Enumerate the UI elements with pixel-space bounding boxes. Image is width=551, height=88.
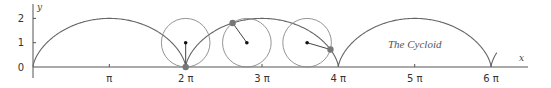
tracing-point <box>327 46 333 52</box>
x-tick-label: 6 π <box>483 73 499 84</box>
x-tick-label: 2 π <box>178 73 194 84</box>
tracing-point <box>182 64 188 70</box>
axes: π2 π3 π4 π5 π6 π012 <box>18 4 528 84</box>
circle-center-dot <box>184 41 188 45</box>
chart-title: The Cycloid <box>388 38 442 50</box>
x-axis-label: x <box>519 53 524 63</box>
x-tick-label: 3 π <box>254 73 270 84</box>
x-tick-label: 4 π <box>331 73 347 84</box>
y-tick-label: 0 <box>18 62 24 73</box>
tracing-point <box>229 20 235 26</box>
radius-line <box>307 43 330 50</box>
circle-center-dot <box>245 41 249 45</box>
circle-center-dot <box>305 41 309 45</box>
x-tick-label: π <box>106 73 112 84</box>
y-tick-label: 1 <box>18 37 24 48</box>
radius-line <box>233 23 247 43</box>
y-axis-label: y <box>36 2 43 12</box>
x-tick-label: 5 π <box>407 73 423 84</box>
cycloid-chart: π2 π3 π4 π5 π6 π012 The Cycloid x y <box>0 0 551 88</box>
y-tick-label: 2 <box>18 13 24 24</box>
